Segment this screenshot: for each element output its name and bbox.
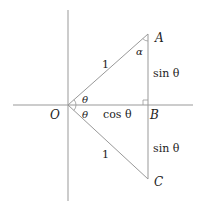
angle-arc-theta-lower xyxy=(74,105,76,110)
label-ab-length: sin θ xyxy=(153,67,180,80)
unit-circle-triangle-diagram: O A B C 1 1 sin θ sin θ cos θ θ θ α xyxy=(0,0,198,209)
label-c: C xyxy=(154,175,163,189)
label-angle-boc: θ xyxy=(82,109,88,120)
label-oc-length: 1 xyxy=(102,148,109,161)
label-oa-length: 1 xyxy=(102,58,109,71)
label-angle-alpha: α xyxy=(136,46,143,57)
angle-arc-alpha xyxy=(143,39,148,41)
label-b: B xyxy=(149,108,159,122)
label-a: A xyxy=(154,31,164,45)
label-o: O xyxy=(50,108,60,122)
angle-arc-theta-upper xyxy=(74,100,76,105)
right-angle-mark xyxy=(143,100,148,105)
label-bc-length: sin θ xyxy=(153,142,180,155)
label-angle-aob: θ xyxy=(82,94,88,105)
label-ob-length: cos θ xyxy=(103,108,132,121)
